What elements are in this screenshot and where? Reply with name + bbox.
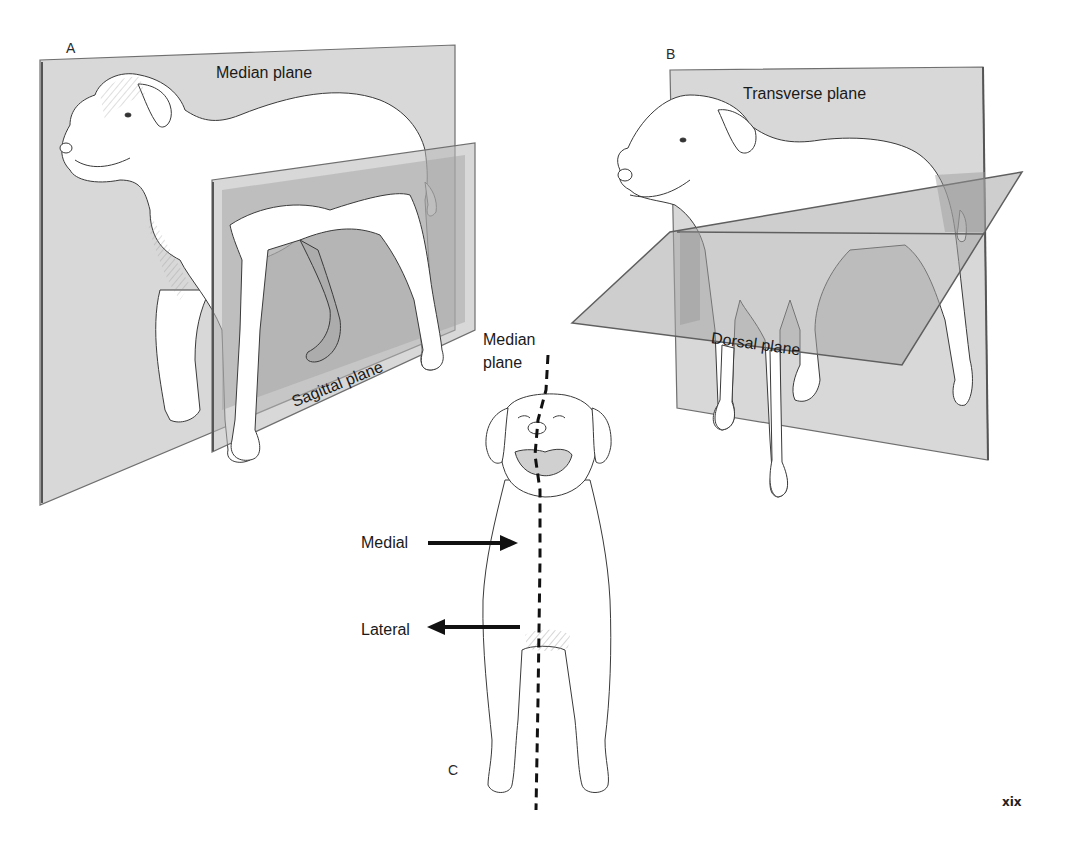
anatomical-planes-figure — [0, 0, 1079, 854]
median-line-label-line1: Median — [483, 330, 535, 349]
panel-letter-a: A — [66, 40, 75, 56]
median-line-label-line2: plane — [483, 353, 522, 372]
median-plane-label: Median plane — [216, 63, 312, 82]
shading-region — [680, 232, 700, 325]
panel-a — [40, 45, 475, 505]
panel-letter-b: B — [666, 46, 675, 62]
lateral-label: Lateral — [361, 620, 410, 639]
page-number: xix — [1002, 795, 1022, 809]
panel-letter-c: C — [448, 762, 458, 778]
panel-b — [572, 67, 1022, 497]
shading-hatch — [525, 630, 570, 651]
transverse-plane-label: Transverse plane — [743, 84, 866, 103]
medial-arrow — [428, 535, 518, 551]
panel-c — [427, 355, 611, 810]
medial-label: Medial — [361, 533, 408, 552]
dog-c-front-view — [483, 394, 611, 793]
